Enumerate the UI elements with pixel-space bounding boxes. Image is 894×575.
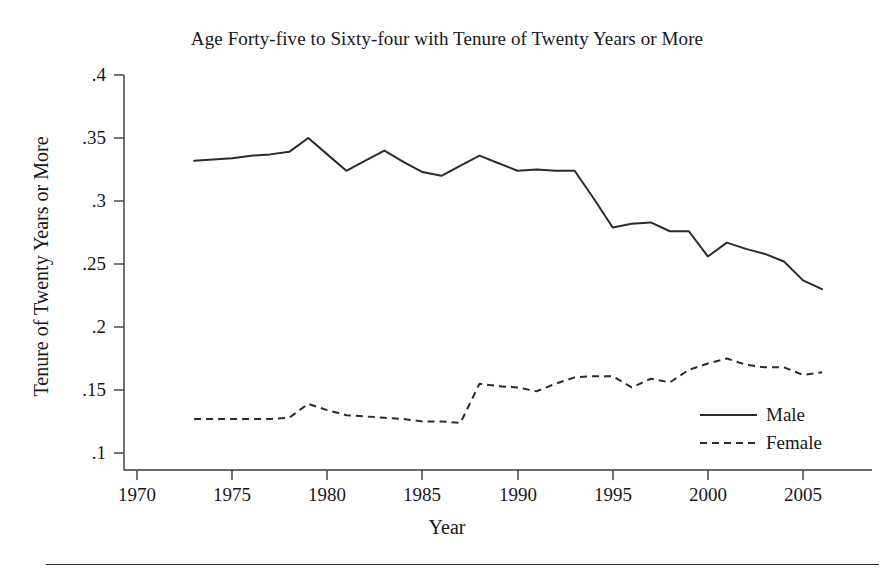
- legend-label-male: Male: [766, 404, 805, 426]
- xtick-label-1990: 1990: [483, 484, 553, 506]
- series-line-male: [194, 138, 822, 289]
- ytick-label-6: .1: [46, 442, 106, 464]
- xtick-label-1980: 1980: [292, 484, 362, 506]
- y-axis-ticks: [114, 75, 124, 453]
- legend-label-female: Female: [766, 432, 822, 454]
- xtick-label-2000: 2000: [673, 484, 743, 506]
- chart-figure: Age Forty-five to Sixty-four with Tenure…: [0, 0, 894, 575]
- legend-swatches: [700, 415, 757, 443]
- xtick-label-2005: 2005: [768, 484, 838, 506]
- axes-spines: [124, 75, 872, 470]
- ytick-label-4: .2: [46, 316, 106, 338]
- series-line-female: [194, 359, 822, 423]
- footer-rule: [46, 564, 879, 565]
- ytick-label-2: .3: [46, 190, 106, 212]
- ytick-label-0: .4: [46, 64, 106, 86]
- ytick-label-3: .25: [46, 253, 106, 275]
- xtick-label-1995: 1995: [578, 484, 648, 506]
- xtick-label-1975: 1975: [197, 484, 267, 506]
- x-axis-ticks: [137, 470, 803, 480]
- xtick-label-1985: 1985: [387, 484, 457, 506]
- ytick-label-1: .35: [46, 127, 106, 149]
- ytick-label-5: .15: [46, 379, 106, 401]
- xtick-label-1970: 1970: [102, 484, 172, 506]
